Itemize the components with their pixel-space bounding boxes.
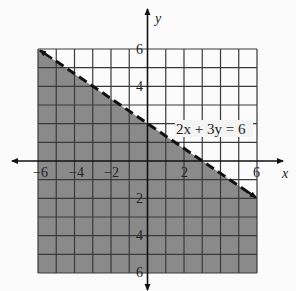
x-axis-label: x <box>281 166 289 181</box>
y-tick-neg2: 2 <box>136 191 143 206</box>
y-tick-6: 6 <box>136 42 143 57</box>
x-tick-neg2: −2 <box>104 165 119 180</box>
x-tick-neg6: −6 <box>33 165 48 180</box>
inequality-graph: y x −6 −4 −2 2 6 6 4 2 4 6 2x + 3y = 6 <box>0 0 296 291</box>
y-tick-4: 4 <box>136 79 143 94</box>
y-axis-label: y <box>153 11 162 26</box>
y-tick-neg4: 4 <box>136 228 143 243</box>
y-tick-neg6: 6 <box>136 265 143 280</box>
x-tick-6: 6 <box>253 165 260 180</box>
x-tick-2: 2 <box>181 165 188 180</box>
x-tick-neg4: −4 <box>69 165 84 180</box>
equation-label: 2x + 3y = 6 <box>176 121 246 137</box>
